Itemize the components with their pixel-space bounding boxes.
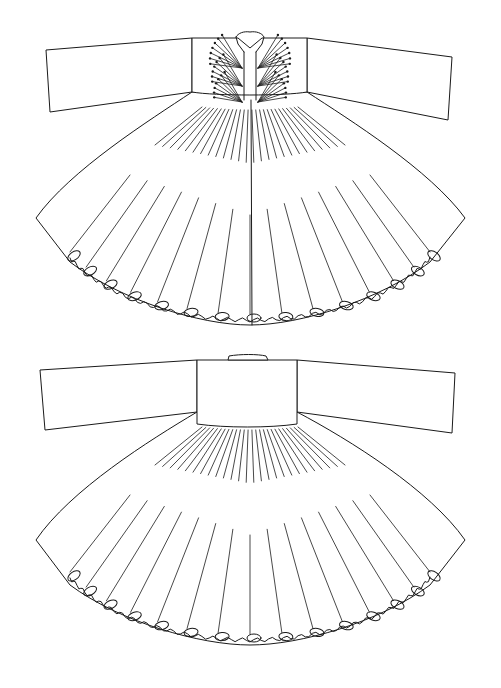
tassel-tip <box>287 75 289 77</box>
tassel-tip <box>287 80 289 82</box>
tassel-tip <box>289 63 291 65</box>
tassel-tip <box>215 61 217 63</box>
tassel-tip <box>217 37 219 39</box>
tassel-tip <box>212 70 214 72</box>
tassel-tip <box>213 65 215 67</box>
back-collar-tab <box>228 355 268 361</box>
tassel-tip <box>215 82 217 84</box>
tassel-tip <box>221 34 223 36</box>
tassel-tip <box>278 74 280 76</box>
tassel-tip <box>213 87 215 89</box>
front-view <box>36 32 465 325</box>
tassel-tip <box>218 57 220 59</box>
tassel-tip <box>283 82 285 84</box>
tassel-tip <box>210 52 212 54</box>
tassel-tip <box>281 37 283 39</box>
tassel-tip <box>211 80 213 82</box>
back-left-sleeve <box>40 360 197 430</box>
tassel-tip <box>286 70 288 72</box>
tassel-tip <box>220 74 222 76</box>
tassel-tip <box>211 75 213 77</box>
garment-drawing <box>0 0 501 688</box>
back-bodice <box>197 360 297 427</box>
tassel-tip <box>281 78 283 80</box>
garment-technical-flat <box>0 0 501 688</box>
back-view <box>36 355 465 646</box>
tassel-tip <box>274 71 276 73</box>
tassel-tip <box>285 91 287 93</box>
tassel-tip <box>222 53 224 55</box>
tassel-tip <box>284 87 286 89</box>
tassel-tip <box>213 91 215 93</box>
tassel-tip <box>285 65 287 67</box>
tassel-tip <box>209 57 211 59</box>
tassel-tip <box>209 63 211 65</box>
tassel-tip <box>223 71 225 73</box>
tassel-tip <box>284 42 286 44</box>
tassel-tip <box>285 96 287 98</box>
tassel-tip <box>282 61 284 63</box>
tassel-tip <box>288 52 290 54</box>
tassel-tip <box>211 47 213 49</box>
tassel-tip <box>286 47 288 49</box>
tassel-tip <box>289 57 291 59</box>
front-left-sleeve <box>46 38 192 112</box>
front-skirt <box>36 92 465 325</box>
tassel-tip <box>277 34 279 36</box>
tassel-tip <box>214 42 216 44</box>
tassel-tip <box>275 53 277 55</box>
tassel-tip <box>279 57 281 59</box>
tassel-tip <box>217 78 219 80</box>
front-bodice <box>192 38 307 95</box>
back-right-sleeve <box>297 360 455 433</box>
back-skirt <box>36 412 465 645</box>
tassel-tip <box>213 96 215 98</box>
